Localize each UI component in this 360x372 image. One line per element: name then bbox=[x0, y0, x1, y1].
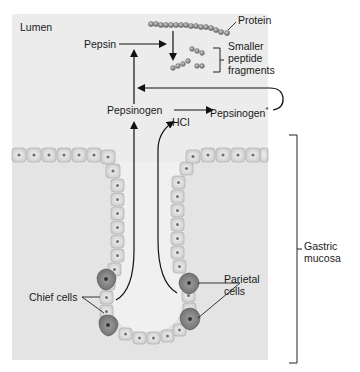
gastric-mucosa-label-2: mucosa bbox=[304, 252, 341, 264]
protein-label: Protein bbox=[238, 14, 271, 26]
pepsinogen-star-text: Pepsinogen bbox=[210, 107, 265, 119]
fragments-label-2: peptide bbox=[228, 52, 262, 64]
asterisk: * bbox=[265, 105, 268, 114]
fragments-label-3: fragments bbox=[228, 64, 275, 76]
gastric-mucosa-bracket bbox=[289, 135, 302, 363]
hcl-label: HCl bbox=[172, 116, 190, 128]
parietal-cells-label-2: cells bbox=[224, 285, 245, 297]
fragments-label-1: Smaller bbox=[228, 40, 264, 52]
pepsin-label: Pepsin bbox=[84, 38, 116, 50]
chief-cells-label: Chief cells bbox=[29, 291, 77, 303]
parietal-cells-label-1: Parietal bbox=[224, 273, 260, 285]
lumen-label: Lumen bbox=[20, 21, 52, 33]
pepsinogen-label: Pepsinogen bbox=[107, 104, 162, 116]
diagram-canvas bbox=[0, 0, 360, 372]
gastric-pit-diagram: Lumen Pepsin Protein Smaller peptide fra… bbox=[0, 0, 360, 372]
gastric-mucosa-label-1: Gastric bbox=[304, 240, 337, 252]
pepsinogen-star-label: Pepsinogen* bbox=[210, 104, 269, 119]
